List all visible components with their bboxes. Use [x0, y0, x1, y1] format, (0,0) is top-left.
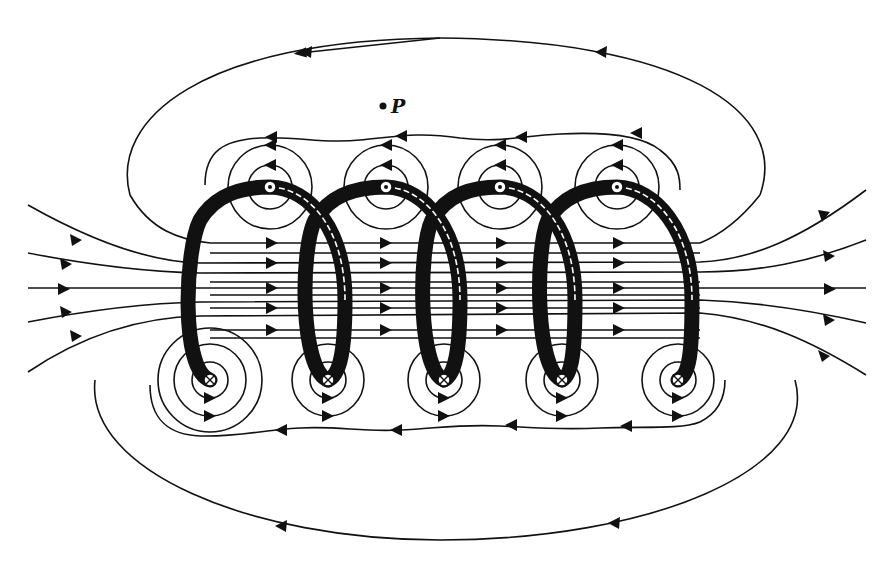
solenoid-field-diagram: P	[0, 0, 892, 563]
outer-bottom-field-loop	[95, 380, 798, 540]
axial-field-lines	[28, 190, 866, 375]
lower-return-field-line	[150, 380, 725, 436]
point-p-label: P	[390, 95, 406, 117]
point-p: P	[380, 95, 407, 117]
outer-top-field-loop	[127, 38, 765, 195]
current-in-symbols	[204, 374, 684, 386]
solenoid-coil	[188, 187, 692, 380]
